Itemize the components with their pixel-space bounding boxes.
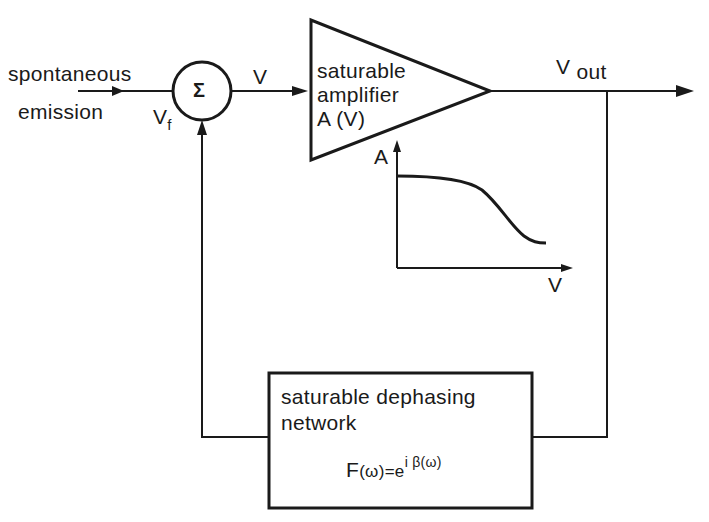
- formula-arg: (ω)=e: [359, 462, 404, 481]
- formula-exponent: i β(ω): [405, 454, 442, 470]
- output-label-main: V: [556, 55, 570, 78]
- output-arrow: [490, 85, 694, 97]
- input-label-line2: emission: [18, 101, 103, 122]
- amplifier-label-line3: A (V): [317, 108, 365, 129]
- network-formula: F(ω)=ei β(ω): [346, 455, 442, 480]
- input-label-line1: spontaneous: [8, 63, 132, 84]
- feedback-label-sub: f: [167, 116, 171, 133]
- plot-x-axis-label: V: [548, 274, 562, 295]
- gain-curve: [397, 176, 546, 243]
- network-label-line1: saturable dephasing: [281, 386, 476, 407]
- formula-f: F: [346, 458, 359, 481]
- sigma-symbol: Σ: [193, 80, 205, 100]
- network-label-line2: network: [281, 412, 357, 433]
- amplifier-label-line1: saturable: [317, 60, 406, 81]
- output-label-sub: out: [576, 60, 606, 83]
- amplifier-label-line2: amplifier: [317, 84, 399, 105]
- input-arrow: [78, 86, 173, 96]
- feedback-label-main: V: [153, 105, 167, 128]
- plot-y-axis-label: A: [374, 146, 388, 167]
- signal-label: V: [253, 66, 267, 87]
- feedback-label: Vf: [153, 106, 172, 132]
- gain-plot: [393, 140, 573, 272]
- signal-arrow: [231, 86, 308, 96]
- output-label: V out: [556, 56, 607, 77]
